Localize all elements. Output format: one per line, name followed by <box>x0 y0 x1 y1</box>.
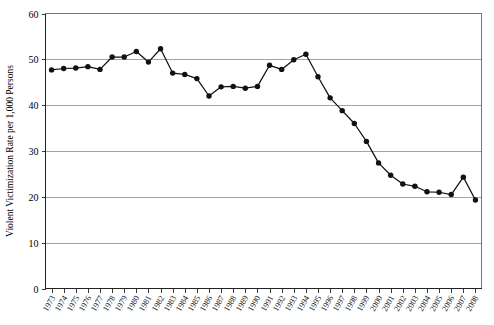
data-point <box>231 84 236 89</box>
data-point <box>255 84 260 89</box>
data-point <box>327 95 332 100</box>
data-point <box>267 63 272 68</box>
data-point <box>49 67 54 72</box>
data-point <box>243 86 248 91</box>
data-point <box>206 93 211 98</box>
data-point <box>315 74 320 79</box>
line-chart: 0102030405060 19731974197519761977197819… <box>0 0 494 325</box>
data-point <box>182 72 187 77</box>
data-point <box>412 184 417 189</box>
data-point <box>158 46 163 51</box>
data-point <box>279 67 284 72</box>
data-point <box>61 66 66 71</box>
data-point <box>340 108 345 113</box>
data-point <box>291 57 296 62</box>
data-point <box>400 181 405 186</box>
y-tick-label: 30 <box>29 146 39 157</box>
y-tick-label: 10 <box>29 238 39 249</box>
data-point <box>170 70 175 75</box>
y-tick-label: 0 <box>34 284 39 295</box>
data-point <box>109 54 114 59</box>
data-point <box>473 197 478 202</box>
y-tick-label: 60 <box>29 9 39 20</box>
y-axis-label: Violent Victimization Rate per 1,000 Per… <box>5 65 15 237</box>
data-point <box>146 59 151 64</box>
data-point <box>97 67 102 72</box>
data-point <box>376 160 381 165</box>
data-point <box>449 192 454 197</box>
data-point <box>388 173 393 178</box>
data-point <box>134 49 139 54</box>
data-point <box>194 76 199 81</box>
data-point <box>73 65 78 70</box>
y-tick-label: 50 <box>29 54 39 65</box>
y-tick-label: 40 <box>29 100 39 111</box>
data-point <box>461 174 466 179</box>
data-point <box>364 139 369 144</box>
data-point <box>352 121 357 126</box>
data-point <box>424 189 429 194</box>
data-point <box>436 190 441 195</box>
data-point <box>85 64 90 69</box>
data-point <box>218 84 223 89</box>
data-point <box>122 54 127 59</box>
y-tick-label: 20 <box>29 192 39 203</box>
chart-container: 0102030405060 19731974197519761977197819… <box>0 0 494 325</box>
chart-background <box>0 0 494 325</box>
data-point <box>303 52 308 57</box>
